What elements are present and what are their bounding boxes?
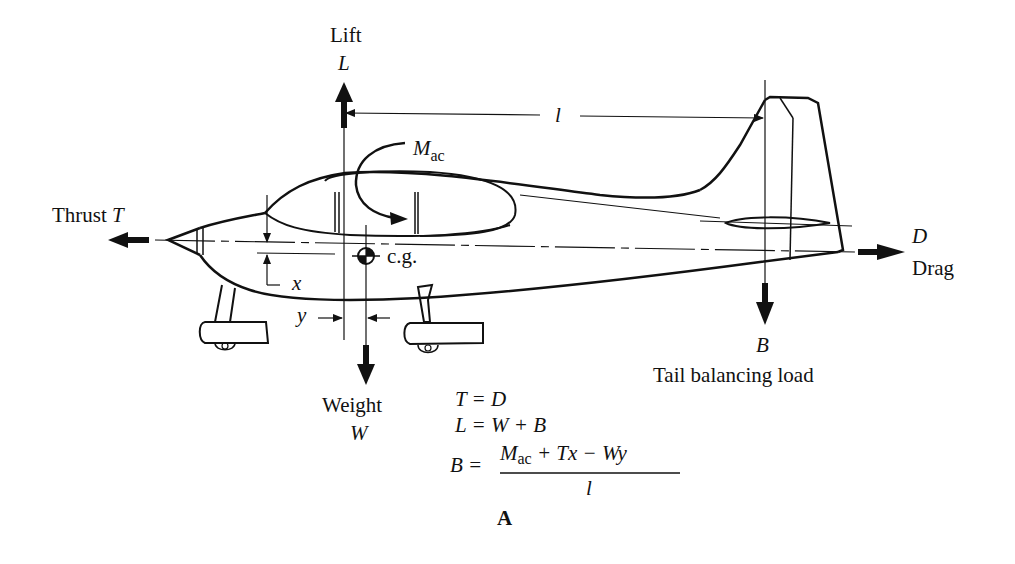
cg-symbol-icon xyxy=(352,248,380,264)
thrust-arrow xyxy=(108,232,149,248)
tail-load-symbol: B xyxy=(756,333,769,357)
lift-label: Lift xyxy=(330,23,362,47)
figure-caption-label: A xyxy=(497,506,513,530)
airplane-outline xyxy=(168,97,852,353)
weight-arrow xyxy=(357,345,375,385)
thrust-label: Thrust T xyxy=(52,203,125,227)
tail-load-label: Tail balancing load xyxy=(653,363,814,387)
equation-tail-load-denominator: l xyxy=(586,476,592,500)
equation-lift-balance: L = W + B xyxy=(454,413,546,437)
y-dimension-label: y xyxy=(295,303,307,327)
reference-lines xyxy=(155,80,855,345)
lift-arrow xyxy=(335,82,353,128)
moment-arrow xyxy=(356,143,408,225)
equation-tail-load-numerator: Mac + Tx − Wy xyxy=(499,441,628,467)
weight-label: Weight xyxy=(322,393,382,417)
cg-label: c.g. xyxy=(387,244,417,268)
x-dimension-label: x xyxy=(291,271,302,295)
drag-label: Drag xyxy=(912,256,954,280)
airplane-force-diagram: Lift L Mac l Thrust T c.g. x y D Drag B … xyxy=(0,0,1015,564)
tail-load-arrow xyxy=(756,283,774,325)
equations: T = D L = W + B B = Mac + Tx − Wy l xyxy=(450,387,680,500)
drag-symbol: D xyxy=(911,224,927,248)
weight-symbol: W xyxy=(350,421,370,445)
moment-label: Mac xyxy=(412,136,445,164)
drag-arrow xyxy=(858,244,905,260)
equation-thrust-drag: T = D xyxy=(455,387,506,411)
arm-length-symbol: l xyxy=(555,103,561,127)
lift-symbol: L xyxy=(337,51,350,75)
equation-tail-load-lhs: B = xyxy=(450,453,482,477)
